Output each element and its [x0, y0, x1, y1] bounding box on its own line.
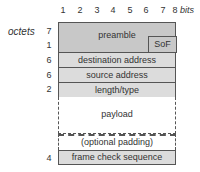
bit-label: 1	[58, 5, 68, 15]
octets-label: octets	[8, 26, 35, 37]
bit-label: 2	[75, 5, 85, 15]
bit-label: 3	[92, 5, 102, 15]
octet-count: 7	[44, 26, 54, 36]
bits-unit-label: bits	[180, 5, 194, 15]
bit-label: 7	[158, 5, 168, 15]
payload-field: payload	[58, 97, 176, 134]
octet-count: 1	[44, 40, 54, 50]
octet-count: 4	[44, 153, 54, 163]
destination-address-field: destination address	[58, 52, 176, 68]
bit-label: 5	[125, 5, 135, 15]
preamble-label: preamble	[98, 30, 136, 40]
optional-padding-field: (optional padding)	[58, 134, 176, 150]
bit-label: 4	[108, 5, 118, 15]
frame-check-sequence-field: frame check sequence	[58, 150, 176, 165]
source-address-field: source address	[58, 67, 176, 83]
octet-count: 6	[44, 55, 54, 65]
sof-field: SoF	[148, 36, 177, 53]
bit-label: 6	[141, 5, 151, 15]
bit-label: 8	[170, 5, 180, 15]
length-type-field: length/type	[58, 82, 176, 98]
octet-count: 6	[44, 70, 54, 80]
octet-count: 2	[44, 84, 54, 94]
